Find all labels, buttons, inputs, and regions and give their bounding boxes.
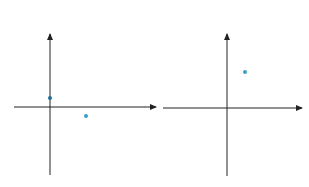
graph-24 [163, 34, 302, 176]
intercept-point [48, 96, 52, 100]
vertex-point [243, 70, 247, 74]
graphs [0, 0, 309, 187]
graph-23 [14, 34, 156, 175]
vertex-point [84, 114, 88, 118]
